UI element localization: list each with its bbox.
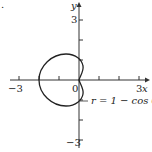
polar-chart: . −3 0 3 3 −3 x y r = 1 − cos θ — [0, 0, 152, 152]
x-axis-arrow-icon — [145, 78, 150, 83]
y-axis-label: y — [70, 0, 77, 11]
x-axis-label: x — [142, 83, 148, 94]
y-tick-label-3: 3 — [71, 14, 77, 25]
y-axis-arrow-icon — [77, 2, 82, 7]
x-tick-label-0: 0 — [72, 83, 78, 94]
y-tick-label-neg3: −3 — [66, 137, 81, 148]
equation-label: r = 1 − cos θ — [91, 95, 152, 106]
figure-marker: . — [1, 0, 4, 10]
x-tick-label-neg3: −3 — [8, 83, 23, 94]
